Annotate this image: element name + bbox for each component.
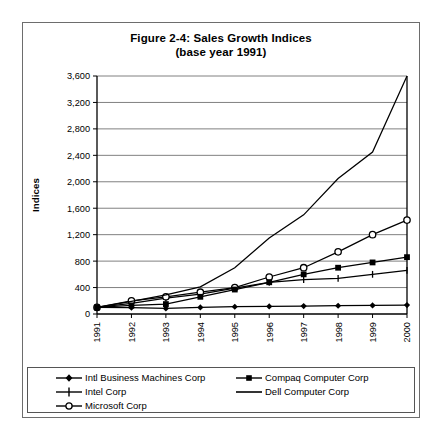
y-axis-title: Indices — [30, 178, 41, 212]
data-point — [129, 303, 135, 309]
legend-item-ibm[interactable]: Intl Business Machines Corp — [56, 371, 205, 384]
data-point — [197, 304, 203, 310]
filled-diamond-icon — [56, 372, 82, 384]
legend-label-dell: Dell Computer Corp — [265, 386, 349, 398]
series-line — [97, 305, 407, 308]
x-axis-tick-label: 1995 — [230, 322, 240, 342]
data-point — [369, 231, 375, 237]
data-point — [335, 303, 341, 309]
legend-label-compaq: Compaq Computer Corp — [265, 372, 369, 384]
series-4 — [97, 76, 407, 307]
chart-area: Figure 2-4: Sales Growth Indices (base y… — [23, 23, 419, 355]
data-point — [232, 287, 238, 293]
plus-marker-icon — [56, 386, 82, 398]
plain-line-icon — [236, 386, 262, 398]
data-point — [197, 294, 203, 300]
figure-frame: Figure 2-4: Sales Growth Indices (base y… — [22, 22, 420, 418]
line-chart-plot: 04008001,2001,6002,0002,4002,8003,2003,6… — [23, 23, 419, 355]
series-1 — [97, 267, 407, 311]
data-point — [266, 274, 272, 280]
y-axis-tick-label: 0 — [85, 309, 90, 319]
data-point — [335, 265, 341, 271]
legend-label-microsoft: Microsoft Corp — [85, 400, 147, 412]
data-point — [404, 302, 410, 308]
series-line — [97, 76, 407, 307]
data-point — [301, 271, 307, 277]
x-axis-tick-label: 1991 — [92, 322, 102, 342]
legend-item-microsoft[interactable]: Microsoft Corp — [56, 399, 205, 412]
x-axis-tick-label: 1998 — [334, 322, 344, 342]
data-point — [335, 249, 341, 255]
data-point — [370, 260, 376, 266]
y-axis-tick-label: 1,600 — [67, 204, 90, 214]
data-point — [301, 303, 307, 309]
y-axis-tick-label: 2,000 — [67, 177, 90, 187]
y-axis-tick-label: 800 — [75, 257, 90, 267]
legend-item-compaq[interactable]: Compaq Computer Corp — [236, 371, 369, 384]
chart-legend: Intl Business Machines Corp Intel Corp M… — [27, 367, 415, 413]
x-axis-tick-label: 1996 — [265, 322, 275, 342]
filled-square-icon — [236, 372, 262, 384]
data-point — [266, 279, 272, 285]
x-axis-tick-label: 1994 — [196, 322, 206, 342]
data-point — [404, 217, 410, 223]
data-point — [300, 265, 306, 271]
legend-column-left: Intl Business Machines Corp Intel Corp M… — [56, 371, 205, 413]
legend-item-intel[interactable]: Intel Corp — [56, 385, 205, 398]
series-line — [97, 270, 407, 307]
legend-label-ibm: Intl Business Machines Corp — [85, 372, 205, 384]
data-point — [163, 301, 169, 307]
series-0 — [94, 302, 410, 312]
data-point — [369, 302, 375, 308]
data-point — [232, 304, 238, 310]
data-point — [404, 254, 410, 260]
y-axis-tick-label: 2,400 — [67, 151, 90, 161]
x-axis-tick-label: 1992 — [127, 322, 137, 342]
y-axis-tick-label: 3,200 — [67, 98, 90, 108]
x-axis-tick-label: 1993 — [161, 322, 171, 342]
y-axis-tick-label: 1,200 — [67, 230, 90, 240]
open-circle-icon — [56, 400, 82, 412]
x-axis-tick-label: 1997 — [299, 322, 309, 342]
y-axis-tick-label: 400 — [75, 283, 90, 293]
y-axis-tick-label: 2,800 — [67, 124, 90, 134]
x-axis-tick-label: 2000 — [402, 322, 412, 342]
legend-item-dell[interactable]: Dell Computer Corp — [236, 385, 369, 398]
y-axis-tick-label: 3,600 — [67, 71, 90, 81]
legend-column-right: Compaq Computer Corp Dell Computer Corp — [236, 371, 369, 399]
x-axis-tick-label: 1999 — [368, 322, 378, 342]
data-point — [266, 303, 272, 309]
legend-label-intel: Intel Corp — [85, 386, 126, 398]
